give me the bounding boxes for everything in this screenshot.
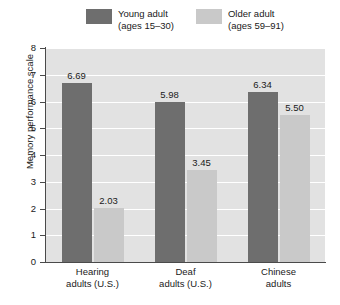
y-axis-tick-label: 1 <box>10 230 36 240</box>
y-axis-tick <box>40 128 46 129</box>
legend-item-young-adult: Young adult (ages 15–30) <box>86 8 174 31</box>
bar-young-adult <box>62 83 92 262</box>
category-label-line1: Deaf <box>175 266 195 277</box>
figure-container: Young adult (ages 15–30) Older adult (ag… <box>0 0 340 305</box>
y-axis-title: Memory performance scale <box>24 17 35 207</box>
bar-young-adult <box>248 92 278 262</box>
y-axis-tick-label: 0 <box>10 257 36 267</box>
legend-label-older-adult-line2: (ages 59–91) <box>228 20 284 32</box>
legend-item-older-adult: Older adult (ages 59–91) <box>196 8 284 31</box>
legend-label-young-adult-line2: (ages 15–30) <box>118 20 174 32</box>
bar-value-label: 5.98 <box>150 90 190 100</box>
bar-value-label: 3.45 <box>182 158 222 168</box>
bar-older-adult <box>280 115 310 262</box>
y-axis-tick <box>40 155 46 156</box>
legend-label-young-adult: Young adult (ages 15–30) <box>118 8 174 31</box>
y-axis-tick <box>40 209 46 210</box>
y-axis-tick <box>40 235 46 236</box>
bar-older-adult <box>187 170 217 262</box>
legend-label-older-adult: Older adult (ages 59–91) <box>228 8 284 31</box>
legend-swatch-older-adult <box>196 9 222 24</box>
bar-value-label: 6.69 <box>57 71 97 81</box>
bar-value-label: 2.03 <box>89 196 129 206</box>
y-axis-tick <box>40 75 46 76</box>
y-axis-tick <box>40 48 46 49</box>
bar-value-label: 5.50 <box>275 103 315 113</box>
x-axis-line <box>45 262 326 263</box>
legend-swatch-young-adult <box>86 9 112 24</box>
category-label-line2: adults <box>224 278 334 290</box>
legend-label-young-adult-line1: Young adult <box>118 8 168 19</box>
category-label-line1: Hearing <box>76 266 109 277</box>
category-label-line1: Chinese <box>261 266 296 277</box>
bar-young-adult <box>155 102 185 262</box>
x-axis-category-label: Chineseadults <box>224 266 334 289</box>
y-axis-tick <box>40 262 46 263</box>
gridline <box>46 48 325 49</box>
bar-older-adult <box>94 208 124 262</box>
y-axis-tick <box>40 182 46 183</box>
bar-value-label: 6.34 <box>243 80 283 90</box>
chart-legend: Young adult (ages 15–30) Older adult (ag… <box>86 8 284 31</box>
y-axis-tick <box>40 102 46 103</box>
legend-label-older-adult-line1: Older adult <box>228 8 274 19</box>
